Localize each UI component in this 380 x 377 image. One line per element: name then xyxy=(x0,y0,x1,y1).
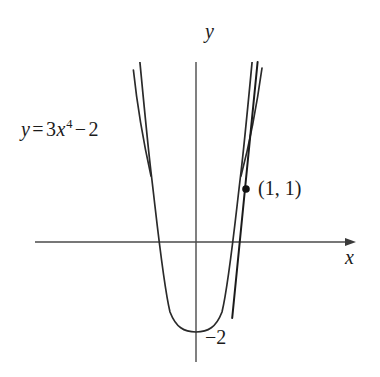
equation-minus-sign: − xyxy=(73,118,89,140)
equation-variable: x xyxy=(56,118,65,140)
equation-lhs: y xyxy=(21,118,30,140)
y-axis xyxy=(191,21,201,362)
equation-equals-sign: = xyxy=(30,118,46,140)
tangency-point-marker xyxy=(242,185,250,193)
point-coordinate-label: (1, 1) xyxy=(258,178,301,198)
equation-coefficient: 3 xyxy=(46,118,56,140)
equation-exponent: 4 xyxy=(66,117,73,131)
math-graph-figure: y=3x4−2 (1, 1) −2 y x xyxy=(0,0,380,377)
x-axis-arrow-icon xyxy=(345,238,356,246)
equation-label: y=3x4−2 xyxy=(21,119,99,139)
plot-canvas xyxy=(0,0,380,377)
y-axis-label: y xyxy=(205,21,214,41)
x-axis-label: x xyxy=(345,247,354,267)
vertex-value-label: −2 xyxy=(205,327,226,347)
curve-top-mask xyxy=(0,0,380,62)
equation-constant: 2 xyxy=(88,118,98,140)
